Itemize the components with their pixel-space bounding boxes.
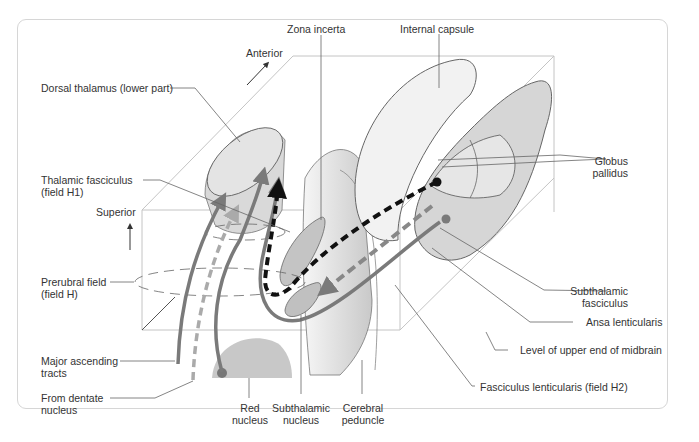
label-ansa-lenticularis: Ansa lenticularis: [586, 316, 662, 328]
label-level-midbrain: Level of upper end of midbrain: [520, 344, 662, 356]
label-anterior: Anterior: [246, 47, 283, 59]
label-internal-capsule: Internal capsule: [400, 23, 474, 35]
label-superior: Superior: [96, 206, 136, 218]
label-thalamic-fasciculus: Thalamic fasciculus(field H1): [41, 174, 133, 198]
label-globus-pallidus: Globuspallidus: [580, 155, 628, 179]
label-major-ascending-tracts: Major ascendingtracts: [41, 355, 118, 379]
label-fasciculus-lenticularis: Fasciculus lenticularis (field H2): [480, 381, 628, 393]
label-subthalamic-fasciculus: Subthalamicfasciculus: [540, 285, 628, 309]
label-prerubral-field: Prerubral field(field H): [41, 276, 106, 300]
anterior-arrow-icon: [247, 64, 267, 85]
label-cerebral-peduncle: Cerebralpeduncle: [337, 402, 389, 426]
label-dorsal-thalamus: Dorsal thalamus (lower part): [41, 82, 173, 94]
label-zona-incerta: Zona incerta: [287, 23, 345, 35]
label-from-dentate: From dentatenucleus: [41, 392, 103, 416]
label-subthalamic-nucleus: Subthalamicnucleus: [268, 402, 334, 426]
